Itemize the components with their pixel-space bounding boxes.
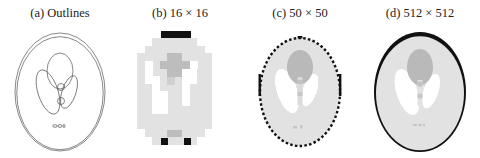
- small-circle-upper: [417, 81, 422, 86]
- panel-title: (c) 50 × 50: [240, 6, 360, 21]
- panel-50x50: (c) 50 × 50: [240, 0, 360, 158]
- panel-title: (d) 512 × 512: [360, 6, 480, 21]
- panel-title: (a) Outlines: [0, 6, 120, 21]
- phantom-50x50-figure: [240, 22, 360, 158]
- panel-16x16: (b) 16 × 16: [120, 0, 240, 158]
- left-ventricle-outline: [31, 67, 64, 117]
- tiny-ellipse-3: [63, 124, 65, 127]
- tiny-ellipse-2: [58, 125, 62, 128]
- phantom-outline-figure: [0, 22, 120, 158]
- skull-outer-outline: [15, 33, 105, 151]
- panel-512x512: (d) 512 × 512: [360, 0, 480, 158]
- panel-outlines: (a) Outlines: [0, 0, 120, 158]
- phantom-512x512-figure: [360, 22, 480, 158]
- skull-inner-outline: [17, 37, 103, 150]
- small-circle-lower: [417, 93, 422, 98]
- phantom-16x16-figure: [120, 22, 240, 158]
- center-blob: [407, 49, 433, 85]
- panel-title: (b) 16 × 16: [120, 6, 240, 21]
- tiny-ellipse-1: [53, 125, 57, 128]
